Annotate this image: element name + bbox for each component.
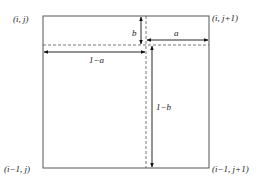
corner-label-top-right: (i, j+1): [212, 13, 238, 23]
corner-label-bottom-left: (i−1, j): [4, 164, 30, 174]
label-a: a: [174, 28, 179, 38]
corner-label-bottom-right: (i−1, j+1): [212, 164, 249, 174]
label-one-minus-b: 1−b: [156, 102, 172, 112]
label-b: b: [132, 28, 137, 38]
grid-cell-square: [43, 16, 209, 168]
label-one-minus-a: 1−a: [89, 55, 105, 65]
diagram-canvas: b a 1−a 1−b (i, j) (i, j+1) (i−1, j) (i−…: [0, 0, 261, 183]
corner-label-top-left: (i, j): [13, 14, 29, 24]
